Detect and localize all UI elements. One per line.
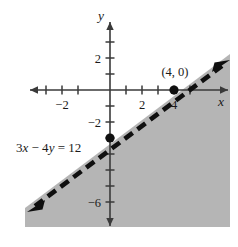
y-axis-label: y: [96, 8, 104, 23]
y-tick-label-2: 2: [95, 52, 101, 66]
point-4-0-dot: [169, 85, 178, 94]
inequality-graph: −2 2 4 2 −2 −6 y x (4, 0) 3x − 4y = 12: [0, 0, 238, 247]
x-tick-label-neg2: −2: [55, 98, 68, 112]
point-0-neg3-dot: [105, 133, 114, 142]
x-axis-label: x: [217, 94, 224, 109]
equation-label: 3x − 4y = 12: [16, 140, 81, 155]
coordinate-plane: −2 2 4 2 −2 −6 y x (4, 0) 3x − 4y = 12: [0, 0, 238, 247]
x-tick-label-2: 2: [139, 98, 145, 112]
equation-operator: − 4: [28, 140, 49, 155]
point-label-4-0: (4, 0): [161, 65, 188, 79]
equation-equals-12: = 12: [54, 140, 81, 155]
y-tick-label-neg6: −6: [88, 196, 101, 210]
x-tick-label-4: 4: [171, 98, 178, 112]
y-tick-label-neg2: −2: [88, 116, 101, 130]
